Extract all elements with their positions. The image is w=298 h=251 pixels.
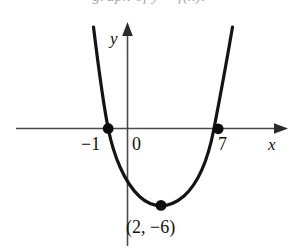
vertex-point-label: (2, −6) bbox=[126, 218, 175, 236]
point-root-left bbox=[103, 123, 114, 134]
parabola-figure: graph of y = f(x). y x −1 0 7 (2, −6) bbox=[0, 0, 298, 251]
x-axis-arrow-icon bbox=[274, 123, 288, 134]
x-tick-label-zero: 0 bbox=[132, 135, 141, 153]
x-axis-label: x bbox=[268, 136, 276, 153]
parabola-curve bbox=[94, 27, 233, 206]
point-vertex bbox=[156, 200, 167, 211]
graph-canvas bbox=[0, 0, 298, 251]
x-tick-label-seven: 7 bbox=[218, 135, 227, 153]
y-axis-label: y bbox=[110, 30, 118, 47]
point-root-right bbox=[213, 123, 224, 134]
x-tick-label-neg-one: −1 bbox=[81, 135, 100, 153]
y-axis-arrow-icon bbox=[122, 22, 133, 36]
